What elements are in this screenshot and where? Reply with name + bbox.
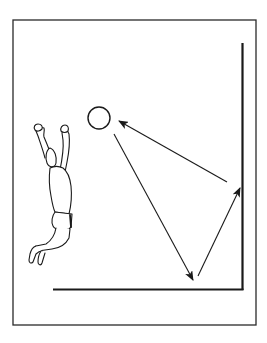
ball-icon [88, 107, 110, 129]
ball-path-arrows [114, 121, 240, 280]
torso [49, 167, 71, 215]
left-hand [34, 124, 42, 131]
lower-leg-back [38, 251, 45, 265]
rebound-drill-diagram [0, 0, 267, 343]
thigh [35, 228, 70, 251]
shorts-stripe [70, 215, 71, 227]
jumping-player-figure [29, 124, 72, 265]
right-hand [61, 125, 69, 133]
head [46, 148, 56, 167]
shorts [52, 212, 72, 230]
right-arm [60, 129, 69, 172]
arrow-floor-to-wall [198, 188, 240, 276]
